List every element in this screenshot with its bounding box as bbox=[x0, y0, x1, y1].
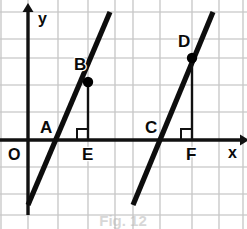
coordinate-plane-figure: ABCDEF x y O Fig. 12 bbox=[0, 0, 247, 229]
point-marker-B bbox=[83, 77, 93, 87]
y-axis-label: y bbox=[38, 10, 47, 27]
origin-label: O bbox=[8, 146, 20, 163]
x-axis-label: x bbox=[228, 144, 237, 161]
point-label-F: F bbox=[186, 145, 196, 164]
point-label-A: A bbox=[40, 118, 52, 137]
point-label-D: D bbox=[178, 32, 190, 51]
point-label-E: E bbox=[82, 145, 93, 164]
point-label-B: B bbox=[74, 55, 86, 74]
point-label-C: C bbox=[145, 118, 157, 137]
figure-container: ABCDEF x y O Fig. 12 bbox=[0, 0, 247, 229]
figure-caption: Fig. 12 bbox=[99, 212, 147, 229]
point-marker-D bbox=[187, 53, 197, 63]
